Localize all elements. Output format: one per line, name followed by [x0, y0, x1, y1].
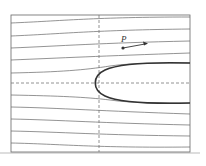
- streamline: [11, 143, 190, 147]
- velocity-vector: [123, 44, 145, 48]
- streamline: [11, 63, 190, 73]
- streamline-diagram: [0, 0, 206, 166]
- point-p-marker: [121, 46, 124, 49]
- point-label-p: P: [121, 34, 127, 44]
- streamline: [11, 17, 190, 23]
- streamline: [11, 131, 190, 136]
- streamline: [11, 107, 190, 114]
- streamline: [11, 29, 190, 36]
- streamline: [11, 95, 190, 103]
- streamline: [11, 41, 190, 48]
- streamline: [11, 53, 190, 60]
- streamline: [11, 119, 190, 125]
